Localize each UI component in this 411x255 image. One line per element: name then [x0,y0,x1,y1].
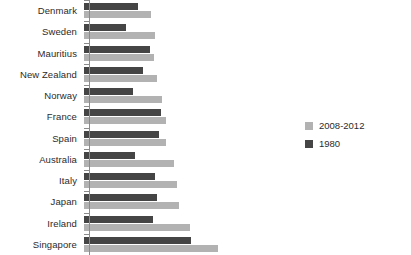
bar-2008-2012 [84,32,155,39]
category-label: New Zealand [0,64,82,85]
chart-legend: 2008-20121980 [305,120,364,149]
chart-row: Ireland [0,213,230,234]
bar-group [82,106,230,127]
bar-1980 [84,194,157,201]
category-rows: DenmarkSwedenMauritiusNew ZealandNorwayF… [0,0,230,255]
bar-group [82,213,230,234]
bar-1980 [84,3,138,10]
bar-group [82,0,230,21]
bar-1980 [84,88,133,95]
bar-group [82,191,230,212]
bar-1980 [84,131,159,138]
bar-1980 [84,109,161,116]
bar-2008-2012 [84,96,162,103]
chart-row: France [0,106,230,127]
bar-2008-2012 [84,11,151,18]
chart-row: New Zealand [0,64,230,85]
legend-swatch-icon [305,140,313,148]
axis-tick [84,234,89,235]
axis-tick [84,106,89,107]
legend-item: 1980 [305,138,364,149]
category-label: Singapore [0,234,82,255]
bar-1980 [84,24,126,31]
category-label: France [0,106,82,127]
axis-tick [84,213,89,214]
bar-2008-2012 [84,245,218,252]
chart-row: Australia [0,149,230,170]
axis-tick [84,170,89,171]
bar-1980 [84,46,150,53]
category-label: Denmark [0,0,82,21]
axis-tick [84,85,89,86]
category-label: Sweden [0,21,82,42]
bar-2008-2012 [84,160,174,167]
bar-group [82,43,230,64]
chart-row: Sweden [0,21,230,42]
bar-chart: DenmarkSwedenMauritiusNew ZealandNorwayF… [0,0,411,255]
axis-tick [84,128,89,129]
value-axis-line [89,0,90,255]
bar-2008-2012 [84,54,154,61]
bar-group [82,170,230,191]
bar-group [82,21,230,42]
chart-row: Denmark [0,0,230,21]
bar-group [82,128,230,149]
chart-row: Norway [0,85,230,106]
axis-tick [84,21,89,22]
axis-tick [84,149,89,150]
category-label: Italy [0,170,82,191]
bar-2008-2012 [84,75,157,82]
bar-1980 [84,216,153,223]
bar-2008-2012 [84,117,166,124]
bar-2008-2012 [84,181,177,188]
legend-label: 2008-2012 [319,120,364,131]
bar-group [82,85,230,106]
bar-group [82,64,230,85]
bar-group [82,149,230,170]
chart-row: Spain [0,128,230,149]
category-label: Japan [0,191,82,212]
category-label: Mauritius [0,43,82,64]
bar-group [82,234,230,255]
bar-2008-2012 [84,139,166,146]
chart-row: Singapore [0,234,230,255]
bar-1980 [84,173,155,180]
legend-label: 1980 [319,138,340,149]
chart-row: Japan [0,191,230,212]
bar-1980 [84,67,143,74]
axis-tick [84,64,89,65]
bar-1980 [84,152,135,159]
chart-row: Mauritius [0,43,230,64]
axis-tick [84,43,89,44]
legend-item: 2008-2012 [305,120,364,131]
legend-swatch-icon [305,122,313,130]
axis-tick [84,0,89,1]
category-label: Australia [0,149,82,170]
bar-2008-2012 [84,202,179,209]
bar-2008-2012 [84,224,190,231]
chart-row: Italy [0,170,230,191]
axis-tick [84,191,89,192]
category-label: Spain [0,128,82,149]
plot-area: DenmarkSwedenMauritiusNew ZealandNorwayF… [0,0,230,255]
category-label: Ireland [0,213,82,234]
category-label: Norway [0,85,82,106]
bar-1980 [84,237,191,244]
